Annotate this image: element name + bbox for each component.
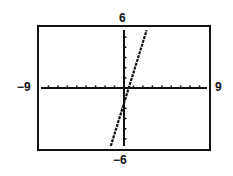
xmax-label: 9	[215, 81, 222, 93]
ymax-label: 6	[119, 12, 126, 24]
axes	[41, 30, 207, 146]
xmin-label: −9	[17, 81, 31, 93]
ymin-label: −6	[113, 154, 127, 166]
graph-window	[0, 0, 233, 176]
